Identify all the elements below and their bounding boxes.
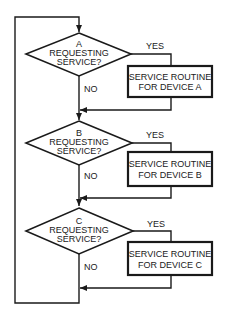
return-a-line	[80, 97, 171, 110]
routine-a-line2: FOR DEVICE A	[138, 82, 201, 92]
yes-c-line	[133, 231, 171, 242]
no-a-label: NO	[84, 84, 98, 94]
decision-c-line3: SERVICE?	[57, 234, 101, 244]
no-c-label: NO	[84, 262, 98, 272]
routine-b-box	[128, 152, 212, 186]
yes-b-line	[132, 143, 171, 152]
yes-a-line	[131, 54, 171, 66]
yes-a-label: YES	[146, 41, 164, 51]
polling-flowchart: A REQUESTING SERVICE? YES SERVICE ROUTIN…	[0, 0, 230, 319]
routine-b-line2: FOR DEVICE B	[138, 170, 202, 180]
no-b-label: NO	[84, 171, 98, 181]
decision-a-line3: SERVICE?	[57, 57, 101, 67]
yes-b-label: YES	[146, 130, 164, 140]
routine-a-line1: SERVICE ROUTINE	[129, 72, 211, 82]
return-c-line	[80, 275, 171, 288]
routine-b-line1: SERVICE ROUTINE	[129, 159, 211, 169]
routine-c-line2: FOR DEVICE C	[138, 260, 203, 270]
return-b-line	[80, 186, 171, 198]
yes-c-label: YES	[147, 219, 165, 229]
decision-b-line3: SERVICE?	[57, 146, 101, 156]
routine-c-line1: SERVICE ROUTINE	[129, 249, 211, 259]
